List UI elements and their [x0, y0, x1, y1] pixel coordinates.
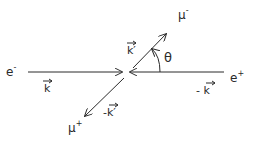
angle-arc: [152, 49, 160, 72]
muon-minus-arrow: [133, 34, 166, 68]
muon-minus-momentum-label: k′: [127, 41, 136, 57]
svg-text:- k: - k: [196, 84, 210, 97]
muon-minus-label: μ-: [178, 6, 189, 22]
electron-label: e-: [6, 63, 16, 79]
muon-plus-momentum-label: -k′: [103, 103, 118, 119]
svg-text:k: k: [44, 82, 51, 95]
svg-text:k′: k′: [127, 44, 136, 57]
muon-plus-label: μ+: [68, 119, 82, 135]
svg-text:-k′: -k′: [103, 106, 116, 119]
scattering-diagram: e- k e+ - k μ- μ+ k′ -k′ θ: [0, 0, 254, 144]
theta-label: θ: [164, 50, 172, 65]
positron-momentum-label: - k: [196, 81, 215, 97]
positron-label: e+: [230, 69, 244, 85]
electron-momentum-label: k: [43, 79, 52, 95]
